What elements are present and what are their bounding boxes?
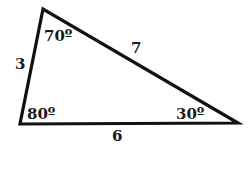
- angle-label-bottom-left: 80º: [27, 105, 56, 123]
- angle-label-bottom-right: 30º: [176, 105, 205, 123]
- triangle-diagram: 70º 80º 30º 3 7 6: [0, 0, 248, 190]
- side-label-bottom: 6: [112, 127, 122, 145]
- side-label-left: 3: [15, 55, 25, 73]
- angle-label-top: 70º: [44, 27, 73, 45]
- side-label-hypotenuse: 7: [131, 39, 141, 57]
